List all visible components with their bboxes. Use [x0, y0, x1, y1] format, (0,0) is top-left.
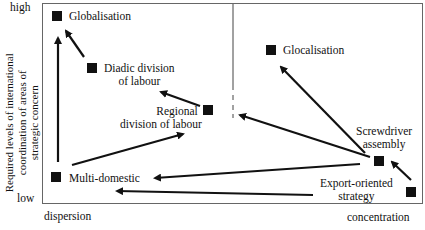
edge-regional-diadic [161, 92, 200, 106]
x-axis-concentration: concentration [347, 211, 410, 224]
node-diadic [87, 63, 97, 73]
node-regional [203, 105, 213, 115]
y-axis-high: high [10, 1, 30, 14]
node-export [406, 187, 416, 197]
label-diadic: Diadic division of labour [104, 62, 175, 88]
node-multidomestic [51, 172, 61, 182]
label-multidomestic: Multi-domestic [69, 172, 140, 185]
y-axis-label: Required levels of international coordin… [3, 43, 41, 203]
edge-export-screwdriver [392, 162, 411, 180]
label-export: Export-oriented strategy [320, 177, 393, 203]
edge-screwdriver-regional [240, 115, 370, 157]
y-axis-low: low [17, 192, 34, 205]
edge-screwdriver-multidomestic [155, 164, 360, 178]
label-glocalisation: Glocalisation [283, 44, 344, 57]
edge-export-multidomestic [117, 191, 313, 195]
x-axis-dispersion: dispersion [44, 210, 91, 223]
label-screwdriver: Screwdriver assembly [356, 125, 412, 151]
node-glocalisation [266, 45, 276, 55]
edge-diadic-globalisation [66, 31, 84, 57]
label-globalisation: Globalisation [69, 10, 131, 23]
label-regional: Regional division of labour [120, 105, 202, 131]
node-globalisation [52, 11, 62, 21]
node-screwdriver [374, 156, 384, 166]
edge-multidomestic-regional [72, 134, 183, 165]
edge-screwdriver-glocalisation [281, 67, 365, 153]
